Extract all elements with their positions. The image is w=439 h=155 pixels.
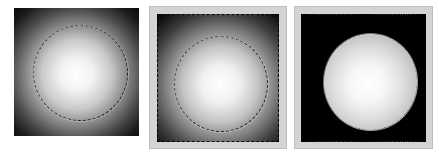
panel-canvas-rect-circle-selection — [149, 6, 287, 149]
rectangle-selection-marquee[interactable] — [157, 14, 279, 142]
gradient-sphere — [324, 34, 417, 130]
circle-selection-marquee[interactable] — [174, 36, 268, 132]
panel-gradient-circle-selection — [14, 8, 139, 136]
radial-gradient-image — [14, 8, 139, 136]
black-canvas — [301, 14, 426, 142]
panel-isolated-sphere — [294, 6, 433, 149]
radial-gradient-canvas — [157, 14, 279, 142]
